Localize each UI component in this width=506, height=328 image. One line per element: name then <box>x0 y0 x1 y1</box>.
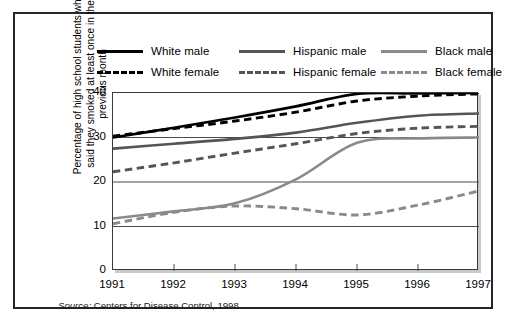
x-tick-label: 1994 <box>282 279 308 291</box>
y-tick-label: 10 <box>93 220 106 232</box>
legend-label: Black female <box>435 62 502 83</box>
x-tick-label: 1993 <box>221 279 247 291</box>
x-tick-label: 1997 <box>465 279 491 291</box>
chart-canvas <box>113 93 479 271</box>
y-axis-title-line-1: Percentage of high school students who <box>72 0 85 182</box>
legend-label: Black male <box>435 41 492 62</box>
y-tick-label: 40 <box>93 86 106 98</box>
legend-label: Hispanic female <box>293 62 376 83</box>
x-tick-label: 1995 <box>343 279 369 291</box>
legend-item-hispanic-male[interactable]: Hispanic male <box>239 41 379 62</box>
chart-legend: White male White female Hispanic male Hi… <box>97 41 497 83</box>
legend-item-white-female[interactable]: White female <box>97 62 237 83</box>
source-label: Source: <box>58 300 91 311</box>
legend-item-black-female[interactable]: Black female <box>381 62 506 83</box>
y-tick-label: 20 <box>93 175 106 187</box>
figure-page: White male White female Hispanic male Hi… <box>0 0 506 328</box>
legend-column-white: White male White female <box>97 41 237 83</box>
y-tick-label: 0 <box>100 264 106 276</box>
legend-item-white-male[interactable]: White male <box>97 41 237 62</box>
legend-item-black-male[interactable]: Black male <box>381 41 506 62</box>
legend-label: Hispanic male <box>293 41 367 62</box>
y-tick-label: 30 <box>93 131 106 143</box>
legend-label: White male <box>151 41 210 62</box>
legend-item-hispanic-female[interactable]: Hispanic female <box>239 62 379 83</box>
plot-area-wrapper: 010203040 1991199219931994199519961997 <box>112 92 478 270</box>
figure-frame: White male White female Hispanic male Hi… <box>13 12 493 309</box>
legend-column-hispanic: Hispanic male Hispanic female <box>239 41 379 83</box>
source-value: Centers for Disease Control, 1998. <box>91 300 241 311</box>
x-tick-label: 1991 <box>99 279 125 291</box>
x-tick-label: 1996 <box>404 279 430 291</box>
legend-column-black: Black male Black female <box>381 41 506 83</box>
source-note: Source: Centers for Disease Control, 199… <box>58 300 241 312</box>
x-tick-label: 1992 <box>160 279 186 291</box>
legend-label: White female <box>151 62 219 83</box>
plot-area <box>112 92 478 270</box>
